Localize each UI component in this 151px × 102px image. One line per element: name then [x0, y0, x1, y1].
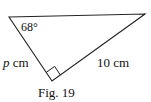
figure-caption: Fig. 19: [38, 86, 75, 99]
side-p-label: p cm: [3, 56, 29, 69]
triangle-diagram: [0, 0, 151, 102]
side-p-unit: cm: [10, 55, 29, 70]
angle-label: 68°: [21, 21, 38, 33]
right-angle-marker: [46, 66, 60, 75]
hypotenuse-label: 10 cm: [97, 56, 129, 69]
figure-canvas: 68° p cm 10 cm Fig. 19: [0, 0, 151, 102]
